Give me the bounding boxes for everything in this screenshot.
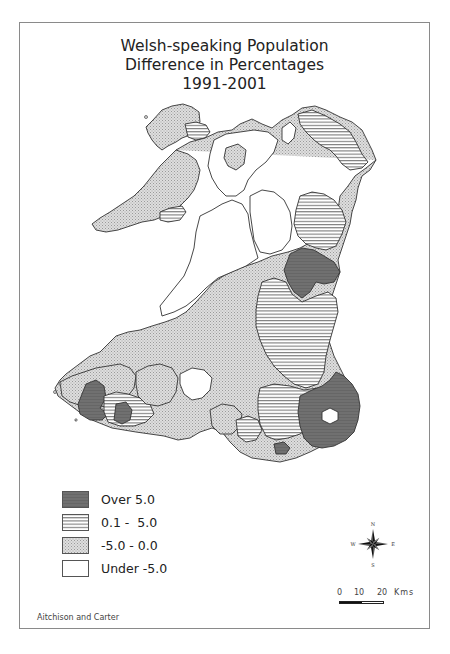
scale-tick-10: 10 (354, 588, 364, 597)
legend-label: Under -5.0 (101, 561, 167, 576)
attribution: Aitchison and Carter (37, 613, 119, 622)
compass-s: S (371, 562, 375, 568)
scale-bar-graphic (339, 601, 384, 604)
region-llyn (92, 150, 200, 232)
scale-bar-fill (340, 602, 362, 603)
swatch-hatch-icon (62, 514, 89, 531)
region-powys-hatch-north (294, 192, 346, 250)
scale-tick-20: 20 (377, 588, 387, 597)
swatch-dark-icon (62, 491, 89, 508)
scale-tick-0: 0 (337, 588, 342, 597)
region-carmarthen-stipple (136, 364, 178, 406)
swatch-blank-icon (62, 560, 89, 577)
compass-rose-icon: N S E W (350, 520, 396, 568)
legend-label: -5.0 - 0.0 (101, 538, 158, 553)
map-legend: Over 5.0 0.1 - 5.0 -5.0 - 0.0 Under -5.0 (62, 488, 167, 580)
legend-item-minus-5-to-0: -5.0 - 0.0 (62, 534, 167, 557)
legend-item-over-5: Over 5.0 (62, 488, 167, 511)
region-south-east-blank-hole (322, 408, 338, 424)
region-mid-wales-blank (250, 190, 292, 254)
scale-labels: 0 10 20 Kms (334, 588, 414, 598)
compass-w: W (350, 541, 356, 547)
compass-n: N (371, 521, 376, 527)
legend-label: 0.1 - 5.0 (101, 515, 157, 530)
scale-bar: 0 10 20 Kms (334, 588, 414, 598)
legend-item-under-minus-5: Under -5.0 (62, 557, 167, 580)
legend-label: Over 5.0 (101, 492, 155, 507)
legend-item-0-1-to-5: 0.1 - 5.0 (62, 511, 167, 534)
swatch-stipple-icon (62, 537, 89, 554)
scale-unit: Kms (394, 588, 414, 597)
compass-e: E (391, 541, 395, 547)
